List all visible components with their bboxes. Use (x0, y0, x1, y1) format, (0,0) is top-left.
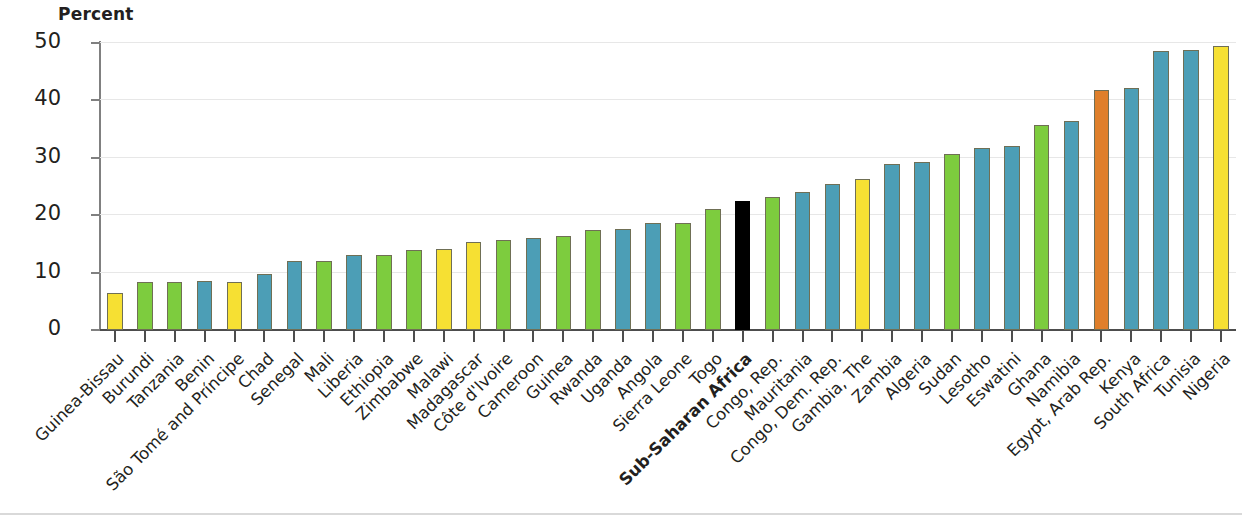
bar[interactable] (974, 148, 990, 330)
bar[interactable] (1153, 51, 1169, 330)
x-axis-tick-mark (443, 331, 445, 342)
bar-slot[interactable] (645, 42, 661, 330)
bar[interactable] (675, 223, 691, 330)
bar-slot[interactable] (914, 42, 930, 330)
bar-slot[interactable] (1124, 42, 1140, 330)
bar-slot[interactable] (227, 42, 243, 330)
bar-slot[interactable] (287, 42, 303, 330)
x-axis-tick-mark (204, 331, 206, 342)
bar[interactable] (556, 236, 572, 330)
bar[interactable] (795, 192, 811, 330)
bar[interactable] (167, 282, 183, 330)
bar[interactable] (436, 249, 452, 330)
x-axis-tick-mark (532, 331, 534, 342)
x-axis-tick-mark (413, 331, 415, 342)
bar-slot[interactable] (376, 42, 392, 330)
bar[interactable] (137, 282, 153, 330)
bar[interactable] (884, 164, 900, 330)
bar-slot[interactable] (1034, 42, 1050, 330)
bar-slot[interactable] (1153, 42, 1169, 330)
bar[interactable] (406, 250, 422, 330)
bar[interactable] (855, 179, 871, 330)
bar[interactable] (1064, 121, 1080, 330)
bar-slot[interactable] (436, 42, 452, 330)
bar-slot[interactable] (556, 42, 572, 330)
bar[interactable] (346, 255, 362, 330)
bar-slot[interactable] (944, 42, 960, 330)
x-axis-tick-mark (293, 331, 295, 342)
bar[interactable] (287, 261, 303, 330)
x-axis-tick-mark (1130, 331, 1132, 342)
bar[interactable] (1183, 50, 1199, 330)
bar-slot[interactable] (406, 42, 422, 330)
x-axis-tick-mark (1190, 331, 1192, 342)
bar-slot[interactable] (316, 42, 332, 330)
x-axis-tick-mark (353, 331, 355, 342)
bar[interactable] (257, 274, 273, 330)
bar[interactable] (466, 242, 482, 330)
bar-slot[interactable] (107, 42, 123, 330)
bar[interactable] (1034, 125, 1050, 330)
bar-slot[interactable] (795, 42, 811, 330)
bar[interactable] (645, 223, 661, 330)
bar-slot[interactable] (526, 42, 542, 330)
bar[interactable] (765, 197, 781, 330)
bar-slot[interactable] (765, 42, 781, 330)
bar-slot[interactable] (615, 42, 631, 330)
x-axis-tick-mark (114, 331, 116, 342)
x-axis-tick-mark (323, 331, 325, 342)
bar-slot[interactable] (735, 42, 751, 330)
bar-slot[interactable] (675, 42, 691, 330)
bar-slot[interactable] (1213, 42, 1229, 330)
bar[interactable] (585, 230, 601, 330)
y-axis-tick-mark (91, 272, 100, 274)
bar-slot[interactable] (825, 42, 841, 330)
y-axis-tick-mark (91, 157, 100, 159)
bar-slot[interactable] (466, 42, 482, 330)
x-axis-tick-mark (174, 331, 176, 342)
bar-slot[interactable] (346, 42, 362, 330)
bar-slot[interactable] (585, 42, 601, 330)
bar-slot[interactable] (197, 42, 213, 330)
x-axis-tick-mark (802, 331, 804, 342)
x-axis-tick-mark (861, 331, 863, 342)
x-axis-tick-mark (234, 331, 236, 342)
bar-slot[interactable] (137, 42, 153, 330)
bar[interactable] (914, 162, 930, 330)
y-axis-tick-label: 30 (15, 146, 61, 167)
bar[interactable] (1213, 46, 1229, 330)
bar[interactable] (615, 229, 631, 330)
bar[interactable] (825, 184, 841, 330)
bar[interactable] (526, 238, 542, 330)
bar-slot[interactable] (974, 42, 990, 330)
bar-slot[interactable] (1064, 42, 1080, 330)
bar[interactable] (227, 282, 243, 330)
bar[interactable] (1004, 146, 1020, 330)
bar-slot[interactable] (1094, 42, 1110, 330)
bar-slot[interactable] (884, 42, 900, 330)
bar[interactable] (1094, 90, 1110, 330)
bar-slot[interactable] (257, 42, 273, 330)
bar-slot[interactable] (1183, 42, 1199, 330)
x-axis-tick-mark (682, 331, 684, 342)
x-axis-tick-mark (921, 331, 923, 342)
bar[interactable] (197, 281, 213, 330)
bar[interactable] (1124, 88, 1140, 330)
x-axis-tick-mark (742, 331, 744, 342)
x-axis-tick-mark (592, 331, 594, 342)
x-axis-tick-mark (263, 331, 265, 342)
x-axis-tick-mark (144, 331, 146, 342)
bar-chart: Percent 01020304050 Guinea-BissauBurundi… (0, 0, 1242, 515)
bar-slot[interactable] (705, 42, 721, 330)
bar[interactable] (705, 209, 721, 330)
bar[interactable] (735, 201, 751, 330)
bar[interactable] (316, 261, 332, 330)
bar-slot[interactable] (167, 42, 183, 330)
bar-slot[interactable] (496, 42, 512, 330)
bar[interactable] (496, 240, 512, 330)
bar-slot[interactable] (855, 42, 871, 330)
bar-slot[interactable] (1004, 42, 1020, 330)
bar[interactable] (107, 293, 123, 330)
bar[interactable] (376, 255, 392, 330)
bar[interactable] (944, 154, 960, 330)
